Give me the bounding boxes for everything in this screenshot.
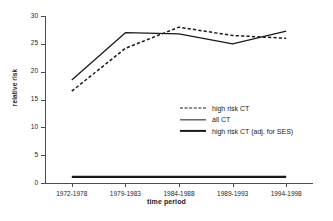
y-tick-label: 10 [31,123,38,130]
series-line [72,27,286,91]
series-line [72,31,286,80]
y-tick-label: 0 [34,179,38,186]
x-tick-label: 1994-1998 [254,190,318,197]
plot-area: 051015202530 1972-19781979-19831984-1988… [45,16,313,184]
legend-swatch-icon [180,127,206,135]
x-axis-title: time period [0,198,333,205]
series-lines [45,16,313,184]
y-tick-label: 30 [31,12,38,19]
y-tick-label: 15 [31,95,38,102]
chart-legend: high risk CTall CThigh risk CT (adj. for… [180,104,293,135]
line-chart-figure: relative risk 051015202530 1972-19781979… [0,0,333,221]
y-tick-label: 5 [34,151,38,158]
y-tick-label: 20 [31,67,38,74]
legend-swatch-icon [180,116,206,124]
legend-label: high risk CT [212,105,249,112]
legend-item: high risk CT [180,104,293,112]
y-tick-label: 25 [31,39,38,46]
legend-label: high risk CT (adj. for SES) [212,128,293,135]
legend-swatch-icon [180,104,206,112]
legend-label: all CT [212,116,230,123]
y-axis-title: relative risk [11,48,18,128]
legend-item: high risk CT (adj. for SES) [180,127,293,135]
legend-item: all CT [180,116,293,124]
